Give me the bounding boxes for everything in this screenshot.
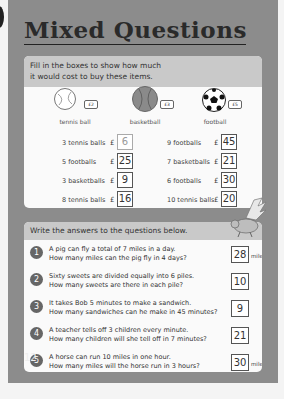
football-icon	[202, 88, 226, 112]
pound-sign: £	[214, 139, 218, 147]
question-text: A teacher tells off 3 children every min…	[49, 326, 207, 344]
question-number: 2	[30, 273, 43, 286]
question-item: 4 A teacher tells off 3 children every m…	[24, 325, 262, 353]
item-quantity-label: 6 footballs	[167, 177, 201, 185]
worksheet-page: Mixed Questions Fill in the boxes to sho…	[8, 0, 278, 383]
question-line-2: How many sweets are there in each pile?	[49, 281, 194, 290]
pound-sign: £	[110, 158, 114, 166]
answer-box[interactable]: 25	[117, 153, 133, 169]
question-line-2: How many children will she tell off in 7…	[49, 335, 207, 344]
price-tag: £3	[160, 100, 174, 109]
item-quantity-label: 5 footballs	[62, 158, 96, 166]
question-number: 3	[30, 300, 43, 313]
question-text: A pig can fly a total of 7 miles in a da…	[49, 245, 187, 263]
binding-edge-mark	[0, 6, 4, 28]
question-line-1: A teacher tells off 3 children every min…	[49, 326, 207, 335]
answer-box[interactable]: 28	[231, 246, 249, 263]
price-items: £2 tennis ball £3 basketball £5 football	[24, 86, 262, 128]
item-quantity-label: 3 basketballs	[62, 177, 105, 185]
question-text: Sixty sweets are divided equally into 6 …	[49, 272, 194, 290]
item-label: tennis ball	[40, 118, 110, 125]
question-item: 1 A pig can fly a total of 7 miles in a …	[24, 244, 262, 272]
cost-panel: Fill in the boxes to show how much it wo…	[24, 56, 262, 208]
question-line-1: It takes Bob 5 minutes to make a sandwic…	[49, 299, 217, 308]
basketball-icon	[132, 86, 158, 112]
item-quantity-label: 7 basketballs	[167, 158, 210, 166]
question-number: 4	[30, 327, 43, 340]
question-item: 3 It takes Bob 5 minutes to make a sandw…	[24, 298, 262, 326]
answer-box[interactable]: 45	[221, 134, 237, 150]
price-tag: £5	[228, 100, 242, 109]
pound-sign: £	[214, 177, 218, 185]
answer-box[interactable]: 21	[231, 327, 249, 344]
question-text: A horse can run 10 miles in one hour. Ho…	[49, 353, 200, 371]
item-quantity-label: 3 tennis balls	[62, 139, 105, 147]
answer-box[interactable]: 30	[221, 172, 237, 188]
answer-box[interactable]: 10	[231, 273, 249, 290]
unit-label: miles	[251, 253, 262, 259]
unit-label: miles	[251, 361, 262, 367]
cost-row: 3 basketballs £ 9 6 footballs £ 30	[24, 172, 262, 188]
pound-sign: £	[214, 196, 218, 204]
question-line-1: A horse can run 10 miles in one hour.	[49, 353, 200, 362]
cost-row: 5 footballs £ 25 7 basketballs £ 21	[24, 153, 262, 169]
question-line-2: How many miles will the horse run in 3 h…	[49, 362, 200, 371]
item-quantity-label: 9 footballs	[167, 139, 201, 147]
questions-panel: Write the answers to the questions below…	[24, 222, 262, 372]
pound-sign: £	[110, 177, 114, 185]
answer-box[interactable]: 6	[117, 134, 133, 150]
instruction-line-1: Fill in the boxes to show how much	[30, 60, 256, 71]
price-tag: £2	[84, 100, 98, 109]
title-underline	[24, 44, 246, 45]
flying-pig-icon	[226, 196, 270, 240]
item-label: football	[180, 118, 250, 125]
question-number: 1	[30, 246, 43, 259]
cost-instructions: Fill in the boxes to show how much it wo…	[24, 56, 262, 87]
answer-box[interactable]: 9	[231, 300, 249, 317]
pound-sign: £	[214, 158, 218, 166]
question-line-1: A pig can fly a total of 7 miles in a da…	[49, 245, 187, 254]
pound-sign: £	[110, 196, 114, 204]
answer-box[interactable]: 16	[117, 191, 133, 207]
question-line-2: How many sandwiches can he make in 45 mi…	[49, 308, 217, 317]
question-text: It takes Bob 5 minutes to make a sandwic…	[49, 299, 217, 317]
question-line-2: How many miles can the pig fly in 4 days…	[49, 254, 187, 263]
item-quantity-label: 10 tennis balls	[167, 196, 215, 204]
item-quantity-label: 8 tennis balls	[62, 196, 105, 204]
item-label: basketball	[110, 118, 180, 125]
pound-sign: £	[110, 139, 114, 147]
tennis-ball-icon	[54, 88, 76, 110]
question-item: 5 A horse can run 10 miles in one hour. …	[24, 352, 262, 372]
cost-row: 3 tennis balls £ 6 9 footballs £ 45	[24, 134, 262, 150]
question-line-1: Sixty sweets are divided equally into 6 …	[49, 272, 194, 281]
page-title: Mixed Questions	[24, 16, 247, 43]
answer-box[interactable]: 9	[117, 172, 133, 188]
page-number: 12	[24, 352, 37, 363]
answer-box[interactable]: 21	[221, 153, 237, 169]
instruction-line-2: it would cost to buy these items.	[30, 71, 256, 82]
question-item: 2 Sixty sweets are divided equally into …	[24, 271, 262, 299]
answer-box[interactable]: 30	[231, 354, 249, 371]
